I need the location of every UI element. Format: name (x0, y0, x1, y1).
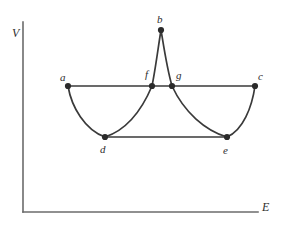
segment-f-b (152, 30, 161, 86)
point-marker-c[interactable] (252, 83, 258, 89)
point-label-b: b (157, 14, 163, 25)
segment-a-d (68, 86, 105, 137)
point-marker-a[interactable] (65, 83, 71, 89)
point-label-g: g (176, 70, 182, 81)
axes-group (23, 22, 258, 212)
point-label-f: f (145, 69, 148, 80)
point-marker-b[interactable] (158, 27, 164, 33)
point-marker-e[interactable] (224, 134, 230, 140)
point-label-d: d (100, 144, 106, 155)
segment-g-e (172, 86, 227, 137)
diagram-canvas (0, 0, 282, 225)
point-label-c: c (258, 71, 263, 82)
free-energy-diagram: V E a b c d e f g (0, 0, 282, 225)
segment-e-c (227, 86, 255, 137)
point-marker-g[interactable] (169, 83, 175, 89)
segment-b-g (161, 30, 172, 86)
point-marker-f[interactable] (149, 83, 155, 89)
point-marker-d[interactable] (102, 134, 108, 140)
free-energy-curve-group (68, 30, 255, 137)
tie-lines-group (68, 86, 255, 137)
y-axis-label: V (12, 27, 19, 39)
segment-d-f (105, 86, 152, 137)
point-markers-group (65, 27, 258, 140)
point-label-a: a (60, 72, 66, 83)
x-axis-label: E (262, 201, 269, 213)
point-label-e: e (223, 145, 228, 156)
